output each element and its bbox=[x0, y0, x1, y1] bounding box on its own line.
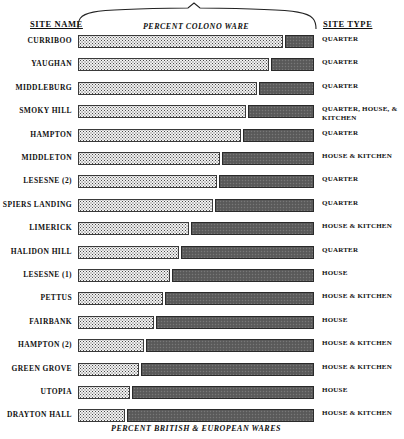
british-european-ware-bar-segment bbox=[215, 199, 314, 212]
british-european-ware-bar-segment bbox=[259, 82, 314, 95]
column-header-site-name: SITE NAME bbox=[30, 19, 83, 29]
site-name-label: GREEN GROVE bbox=[0, 364, 72, 374]
colono-ware-bar-segment bbox=[78, 175, 217, 188]
site-type-label: HOUSE & KITCHEN bbox=[322, 152, 404, 161]
site-name-label: LESESNE (2) bbox=[0, 176, 72, 186]
chart-row: YAUGHANQUARTER bbox=[0, 55, 404, 79]
chart-row: LESESNE (2)QUARTER bbox=[0, 172, 404, 196]
site-type-label: QUARTER bbox=[322, 58, 404, 67]
colono-ware-bar-segment bbox=[78, 386, 130, 399]
colono-ware-bar-segment bbox=[78, 292, 163, 305]
chart-row: LESESNE (1)HOUSE bbox=[0, 266, 404, 290]
chart-row: CURRIBOOQUARTER bbox=[0, 32, 404, 56]
british-european-ware-bar-segment bbox=[146, 339, 314, 352]
colono-ware-bar-segment bbox=[78, 363, 139, 376]
top-axis-caption: PERCENT COLONO WARE bbox=[78, 22, 314, 31]
site-name-label: MIDDLETON bbox=[0, 153, 72, 163]
site-type-label: QUARTER, HOUSE, & KITCHEN bbox=[322, 105, 404, 122]
colono-ware-bar-segment bbox=[78, 316, 154, 329]
site-type-label: HOUSE bbox=[322, 269, 404, 278]
chart-row: FAIRBANKHOUSE bbox=[0, 313, 404, 337]
site-name-label: PETTUS bbox=[0, 293, 72, 303]
site-type-label: HOUSE & KITCHEN bbox=[322, 409, 404, 418]
site-name-label: MIDDLEBURG bbox=[0, 83, 72, 93]
chart-row: HAMPTONQUARTER bbox=[0, 126, 404, 150]
site-type-label: HOUSE & KITCHEN bbox=[322, 339, 404, 348]
site-type-label: QUARTER bbox=[322, 199, 404, 208]
chart-row: HALIDON HILLQUARTER bbox=[0, 243, 404, 267]
chart-row: HAMPTON (2)HOUSE & KITCHEN bbox=[0, 336, 404, 360]
chart-row: SPIERS LANDINGQUARTER bbox=[0, 196, 404, 220]
site-name-label: HAMPTON bbox=[0, 130, 72, 140]
column-header-site-type: SITE TYPE bbox=[323, 19, 372, 29]
site-type-label: HOUSE & KITCHEN bbox=[322, 222, 404, 231]
site-name-label: LESESNE (1) bbox=[0, 270, 72, 280]
british-european-ware-bar-segment bbox=[191, 222, 314, 235]
british-european-ware-bar-segment bbox=[219, 175, 314, 188]
chart-row: PETTUSHOUSE & KITCHEN bbox=[0, 289, 404, 313]
colono-ware-chart: SITE NAME SITE TYPE PERCENT COLONO WARE … bbox=[0, 0, 404, 439]
site-type-label: QUARTER bbox=[322, 175, 404, 184]
site-name-label: HALIDON HILL bbox=[0, 247, 72, 257]
british-european-ware-bar-segment bbox=[132, 386, 314, 399]
colono-ware-bar-segment bbox=[78, 246, 179, 259]
site-name-label: LIMERICK bbox=[0, 223, 72, 233]
site-type-label: HOUSE bbox=[322, 316, 404, 325]
site-name-label: CURRIBOO bbox=[0, 36, 72, 46]
british-european-ware-bar-segment bbox=[127, 409, 314, 422]
site-type-label: QUARTER bbox=[322, 82, 404, 91]
chart-row: GREEN GROVEHOUSE & KITCHEN bbox=[0, 360, 404, 384]
site-type-label: HOUSE & KITCHEN bbox=[322, 292, 404, 301]
chart-row: SMOKY HILLQUARTER, HOUSE, & KITCHEN bbox=[0, 102, 404, 126]
colono-ware-bar-segment bbox=[78, 269, 170, 282]
site-type-label: HOUSE & KITCHEN bbox=[322, 363, 404, 372]
colono-ware-bar-segment bbox=[78, 199, 213, 212]
british-european-ware-bar-segment bbox=[141, 363, 314, 376]
colono-ware-bar-segment bbox=[78, 152, 220, 165]
site-name-label: SMOKY HILL bbox=[0, 106, 72, 116]
chart-row: MIDDLETONHOUSE & KITCHEN bbox=[0, 149, 404, 173]
british-european-ware-bar-segment bbox=[172, 269, 314, 282]
british-european-ware-bar-segment bbox=[156, 316, 314, 329]
chart-row: LIMERICKHOUSE & KITCHEN bbox=[0, 219, 404, 243]
british-european-ware-bar-segment bbox=[222, 152, 314, 165]
site-type-label: QUARTER bbox=[322, 35, 404, 44]
british-european-ware-bar-segment bbox=[243, 129, 314, 142]
colono-ware-bar-segment bbox=[78, 35, 283, 48]
site-name-label: FAIRBANK bbox=[0, 317, 72, 327]
british-european-ware-bar-segment bbox=[271, 58, 314, 71]
colono-ware-bar-segment bbox=[78, 222, 189, 235]
site-name-label: SPIERS LANDING bbox=[0, 200, 72, 210]
site-type-label: QUARTER bbox=[322, 129, 404, 138]
colono-ware-bar-segment bbox=[78, 129, 241, 142]
site-name-label: YAUGHAN bbox=[0, 59, 72, 69]
site-name-label: DRAYTON HALL bbox=[0, 410, 72, 420]
chart-row: MIDDLEBURGQUARTER bbox=[0, 79, 404, 103]
british-european-ware-bar-segment bbox=[248, 105, 314, 118]
colono-ware-bar-segment bbox=[78, 105, 246, 118]
chart-row: DRAYTON HALLHOUSE & KITCHEN bbox=[0, 406, 404, 430]
british-european-ware-bar-segment bbox=[165, 292, 314, 305]
site-type-label: HOUSE bbox=[322, 386, 404, 395]
british-european-ware-bar-segment bbox=[285, 35, 314, 48]
colono-ware-bar-segment bbox=[78, 82, 257, 95]
site-type-label: QUARTER bbox=[322, 246, 404, 255]
colono-ware-bar-segment bbox=[78, 409, 125, 422]
site-name-label: UTOPIA bbox=[0, 387, 72, 397]
chart-row: UTOPIAHOUSE bbox=[0, 383, 404, 407]
british-european-ware-bar-segment bbox=[181, 246, 314, 259]
colono-ware-bar-segment bbox=[78, 58, 269, 71]
site-name-label: HAMPTON (2) bbox=[0, 340, 72, 350]
colono-ware-bar-segment bbox=[78, 339, 144, 352]
